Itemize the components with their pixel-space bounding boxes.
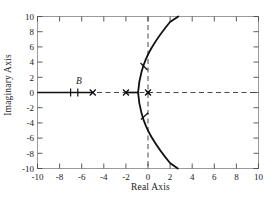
x-tick-label: 4: [190, 172, 195, 182]
y-tick-labels: 10 8 6 4 2 0 -2 -4 -6 -8 -10: [22, 12, 35, 174]
y-tick-label: 10: [25, 12, 35, 22]
x-tick-label: -4: [100, 172, 108, 182]
x-tick-label: 2: [168, 172, 173, 182]
y-tick-label: 6: [30, 42, 35, 52]
x-tick-label: 0: [146, 172, 151, 182]
y-tick-label: -8: [27, 149, 35, 159]
y-tick-label: -6: [27, 133, 35, 143]
y-tick-label: 4: [30, 57, 35, 67]
x-tick-label: 8: [234, 172, 239, 182]
x-tick-label: -10: [32, 172, 44, 182]
x-tick-label: 10: [254, 172, 264, 182]
plot-canvas: 10 8 6 4 2 0 -2 -4 -6 -8 -10 -10 -8 -6 -…: [0, 0, 279, 199]
x-tick-label: -2: [122, 172, 130, 182]
root-locus-figure: Imaginary Axis Real Axis: [0, 0, 279, 199]
x-tick-label: -8: [56, 172, 64, 182]
y-tick-label: -4: [27, 118, 35, 128]
x-tick-label: 6: [212, 172, 217, 182]
y-tick-label: 0: [30, 88, 35, 98]
x-tick-labels: -10 -8 -6 -4 -2 0 2 4 6 8 10: [32, 172, 264, 182]
y-tick-label: 2: [30, 73, 35, 83]
y-tick-label: 8: [30, 27, 35, 37]
branch-label-b: B: [76, 76, 82, 86]
y-tick-label: -2: [27, 103, 35, 113]
x-tick-label: -6: [78, 172, 86, 182]
